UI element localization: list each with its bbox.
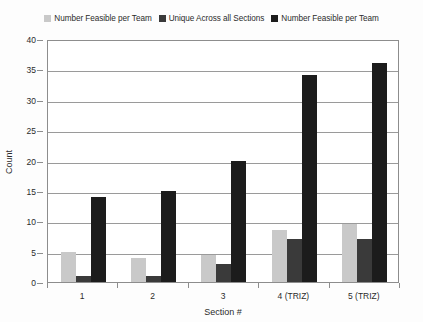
bar-group4-series1 [272,230,287,282]
bar-group2-series1 [131,258,146,282]
y-tick-label-5: 5 [31,248,36,257]
x-tick-mark-3 [258,283,259,288]
y-tick-label-35: 35 [27,66,36,75]
y-tick-label-20: 20 [27,157,36,166]
x-tick-mark-2 [188,283,189,288]
x-axis-title: Section # [47,307,399,317]
chart-legend: Number Feasible per Team Unique Across a… [0,14,423,23]
bars-layer [48,41,398,282]
x-tick-label-2: 2 [150,291,155,301]
bar-chart-figure: Number Feasible per Team Unique Across a… [0,0,423,322]
y-tick-label-40: 40 [27,36,36,45]
bar-group1-series3 [91,197,106,282]
bar-group3-series1 [201,255,216,282]
bar-group1-series1 [61,252,76,282]
bar-group2-series3 [161,191,176,282]
y-axis: Count 0510152025303540 [0,33,47,290]
bar-group4-series2 [287,239,302,282]
bar-group3-series3 [231,161,246,283]
y-axis-title: Count [4,149,14,173]
x-tick-label-1: 1 [80,291,85,301]
bar-group-3 [189,41,259,282]
y-tick-label-15: 15 [27,187,36,196]
plot-area [47,40,399,283]
y-tick-label-0: 0 [31,279,36,288]
bar-group5-series1 [342,224,357,282]
y-tick-mark-10 [37,222,43,223]
y-tick-label-10: 10 [27,218,36,227]
x-tick-mark-1 [117,283,118,288]
bar-group-5 [330,41,400,282]
legend-item-unique-across-all-sections: Unique Across all Sections [159,14,265,23]
y-tick-mark-20 [37,162,43,163]
y-tick-mark-15 [37,192,43,193]
bar-group4-series3 [302,75,317,282]
bar-group-2 [118,41,188,282]
legend-swatch-dark-gray [159,15,166,22]
y-tick-mark-35 [37,70,43,71]
x-tick-mark-0 [47,283,48,288]
bar-group2-series2 [146,276,161,282]
legend-item-number-feasible-per-team-1: Number Feasible per Team [44,14,151,23]
bar-group-4 [259,41,329,282]
legend-item-number-feasible-per-team-2: Number Feasible per Team [271,14,378,23]
bar-group5-series3 [372,63,387,282]
legend-label-1: Number Feasible per Team [54,14,151,23]
legend-label-2: Unique Across all Sections [169,14,265,23]
y-tick-label-25: 25 [27,127,36,136]
y-tick-label-30: 30 [27,96,36,105]
x-tick-label-3: 3 [221,291,226,301]
bar-group1-series2 [76,276,91,282]
x-axis: Section # 1234 (TRIZ)5 (TRIZ) [47,283,399,322]
x-tick-label-4: 4 (TRIZ) [278,291,310,301]
bar-group5-series2 [357,239,372,282]
y-tick-mark-40 [37,40,43,41]
legend-label-3: Number Feasible per Team [281,14,378,23]
x-tick-mark-5 [399,283,400,288]
x-tick-label-5: 5 (TRIZ) [348,291,380,301]
y-tick-mark-30 [37,101,43,102]
bar-group3-series2 [216,264,231,282]
y-tick-mark-25 [37,131,43,132]
bar-group-1 [48,41,118,282]
x-tick-mark-4 [329,283,330,288]
y-tick-mark-0 [37,283,43,284]
legend-swatch-light-gray [44,15,51,22]
legend-swatch-black [271,15,278,22]
y-tick-mark-5 [37,253,43,254]
